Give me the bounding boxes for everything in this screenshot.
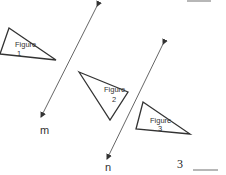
figure-2-label: Figure [104,85,125,94]
line-n: n [105,44,163,173]
figure-2-triangle [79,72,128,120]
figure-1: Figure 1 [0,28,56,60]
figure-1-label: Figure [15,40,36,49]
reflection-diagram: m n Figure 1 Figure 2 Figure 3 3 [0,0,226,175]
line-m-path [41,6,97,117]
figure-1-number: 1 [17,49,21,58]
line-m: m [40,6,97,136]
line-m-label: m [40,124,49,136]
figure-2: Figure 2 [79,72,128,120]
line-n-label: n [105,161,111,173]
answer-blank-3: 3 [177,157,218,171]
question-number: 3 [177,157,183,171]
figure-2-number: 2 [112,95,116,104]
figure-3: Figure 3 [136,102,190,134]
figure-3-number: 3 [158,124,162,133]
